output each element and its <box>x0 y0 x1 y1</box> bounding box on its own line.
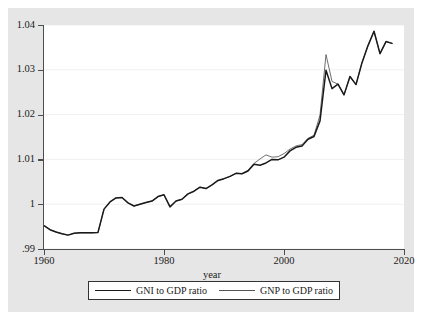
legend-line-icon-gnp <box>219 290 255 291</box>
legend-line-icon-gni <box>95 290 131 291</box>
legend-item-gnp[interactable]: GNP to GDP ratio <box>219 285 333 296</box>
legend-label-gnp: GNP to GDP ratio <box>260 285 333 296</box>
y-tick-mark <box>38 70 43 71</box>
plot-region <box>44 25 404 249</box>
line-chart-svg <box>44 25 404 249</box>
y-axis-line <box>43 25 44 250</box>
legend-item-gni[interactable]: GNI to GDP ratio <box>95 285 207 296</box>
x-tick-label: 2020 <box>384 256 424 267</box>
chart-screenshot: .9911.011.021.031.04 1960198020002020 ye… <box>0 0 424 325</box>
y-tick-mark <box>38 25 43 26</box>
x-tick-label: 2000 <box>264 256 304 267</box>
y-tick-label: 1.03 <box>17 64 35 75</box>
y-tick-mark <box>38 115 43 116</box>
y-tick-mark <box>38 249 43 250</box>
y-tick-label: 1 <box>30 199 35 210</box>
legend-label-gni: GNI to GDP ratio <box>136 285 207 296</box>
x-axis-line <box>44 249 405 250</box>
y-tick-label: .99 <box>22 244 35 255</box>
chart-legend: GNI to GDP ratio GNP to GDP ratio <box>88 281 340 300</box>
y-tick-label: 1.04 <box>17 20 35 31</box>
x-axis-title: year <box>0 269 424 280</box>
x-tick-label: 1980 <box>144 256 184 267</box>
y-tick-mark <box>38 159 43 160</box>
y-tick-mark <box>38 204 43 205</box>
y-tick-label: 1.01 <box>17 154 35 165</box>
x-tick-label: 1960 <box>24 256 64 267</box>
y-tick-label: 1.02 <box>17 109 35 120</box>
